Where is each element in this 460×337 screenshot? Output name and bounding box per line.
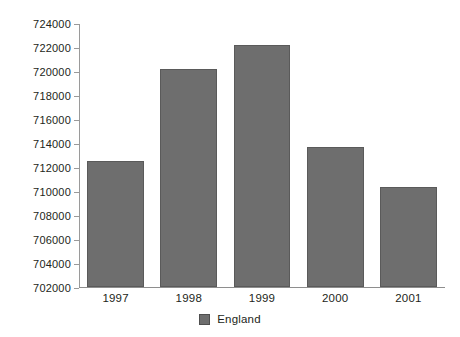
legend-swatch-england [199, 314, 210, 325]
x-axis-tick-label: 2000 [322, 292, 348, 304]
y-axis-tick-label: 718000 [33, 90, 71, 102]
y-axis-tick [74, 24, 79, 25]
y-axis-tick-label: 714000 [33, 138, 71, 150]
y-axis-tick [74, 72, 79, 73]
y-axis-tick [74, 168, 79, 169]
y-axis-tick [74, 96, 79, 97]
y-axis-tick [74, 288, 79, 289]
chart-legend: England [0, 313, 460, 325]
bar-2000 [307, 147, 364, 287]
y-axis-tick-label: 704000 [33, 258, 71, 270]
x-axis-tick-label: 2001 [395, 292, 421, 304]
legend-label-england: England [217, 313, 261, 325]
x-axis-tick-label: 1997 [102, 292, 128, 304]
x-axis-line [79, 287, 445, 288]
x-axis-tick-label: 1999 [249, 292, 275, 304]
y-axis-tick-label: 716000 [33, 114, 71, 126]
y-axis-tick [74, 144, 79, 145]
y-axis-tick [74, 192, 79, 193]
y-axis-line [79, 24, 80, 288]
y-axis-tick-label: 708000 [33, 210, 71, 222]
y-axis-tick-label: 720000 [33, 66, 71, 78]
x-axis-tick-label: 1998 [176, 292, 202, 304]
y-axis-tick [74, 264, 79, 265]
y-axis-tick-label: 702000 [33, 282, 71, 294]
y-axis-tick [74, 240, 79, 241]
y-axis-tick [74, 120, 79, 121]
bar-1998 [160, 69, 217, 287]
y-axis-tick-label: 722000 [33, 42, 71, 54]
y-axis-tick-label: 724000 [33, 18, 71, 30]
y-axis-tick-label: 706000 [33, 234, 71, 246]
y-axis-tick [74, 48, 79, 49]
bar-chart-figure: 7240007220007200007180007160007140007120… [0, 0, 460, 337]
chart-title-clipped [0, 0, 460, 7]
y-axis-tick-label: 710000 [33, 186, 71, 198]
bar-2001 [380, 187, 437, 287]
plot-area [79, 24, 445, 288]
bar-1999 [234, 45, 291, 287]
y-axis-tick [74, 216, 79, 217]
y-axis-tick-label: 712000 [33, 162, 71, 174]
bar-1997 [87, 161, 144, 287]
